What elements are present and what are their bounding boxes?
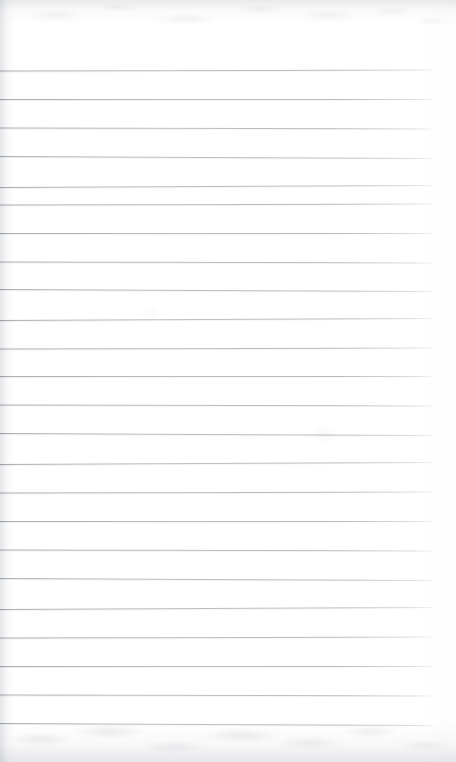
scanned-page [0,0,456,762]
paper-sheet [0,0,456,762]
